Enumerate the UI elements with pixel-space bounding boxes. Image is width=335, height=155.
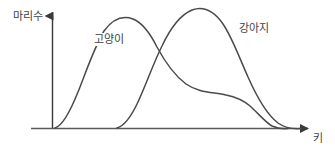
x-axis-label: 키: [313, 133, 323, 144]
cat-curve-label: 고양이: [92, 33, 125, 46]
chart-plot-area: [0, 0, 335, 155]
y-axis-label: 마리수: [13, 11, 42, 22]
dog-curve-label: 강아지: [237, 22, 270, 35]
distribution-chart: 마리수 키 고양이 강아지: [0, 0, 335, 155]
